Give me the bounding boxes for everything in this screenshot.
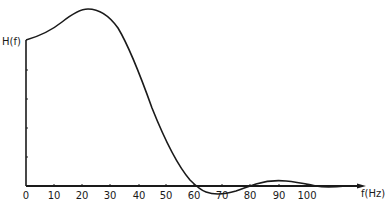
y-axis-label: H(f) [2,36,21,47]
frequency-response-chart: H(f) f(Hz) 0 10 20 30 40 50 60 70 80 90 … [0,0,387,208]
x-tick-label: 0 [23,190,29,201]
response-curve [26,9,362,194]
x-tick-label: 90 [273,190,286,201]
x-tick-label: 20 [76,190,89,201]
x-tick-label: 30 [104,190,117,201]
x-tick-labels: 0 10 20 30 40 50 60 70 80 90 100 [23,190,317,201]
x-tick-label: 70 [216,190,229,201]
x-tick-label: 50 [160,190,173,201]
x-axis-label: f(Hz) [361,188,385,199]
x-tick-label: 40 [133,190,146,201]
x-tick-label: 10 [48,190,61,201]
x-tick-label: 60 [188,190,201,201]
x-tick-label: 80 [244,190,257,201]
x-tick-label: 100 [297,190,316,201]
